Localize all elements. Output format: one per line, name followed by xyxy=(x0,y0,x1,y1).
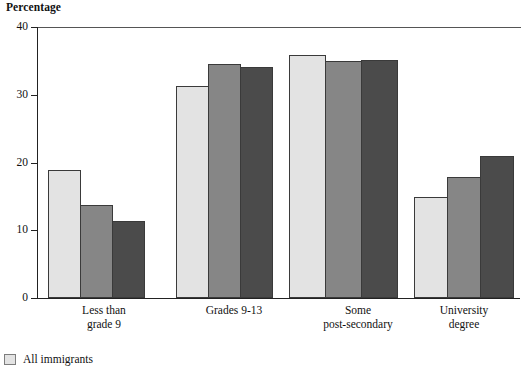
x-axis-category-label-line: grade 9 xyxy=(34,317,174,331)
x-axis-category-label: Grades 9-13 xyxy=(164,303,304,317)
bar xyxy=(240,67,273,298)
bar xyxy=(208,64,241,298)
bar xyxy=(325,61,362,298)
y-axis-tick-labels: 403020100 xyxy=(0,0,28,368)
x-axis-category-label: Less thangrade 9 xyxy=(34,303,174,331)
bar xyxy=(80,205,113,298)
bar-group xyxy=(176,27,272,298)
x-axis-category-label-line: degree xyxy=(394,317,521,331)
legend-color-swatch xyxy=(4,354,16,365)
legend-item: All immigrants xyxy=(4,352,93,366)
chart-legend: All immigrants xyxy=(4,352,93,368)
y-axis-tick-label: 10 xyxy=(2,224,28,236)
x-axis-category-label: Universitydegree xyxy=(394,303,521,331)
x-axis-category-label-line: University xyxy=(394,303,521,317)
y-axis-tick-label: 40 xyxy=(2,21,28,33)
bar xyxy=(414,197,448,298)
x-axis-line xyxy=(31,298,520,299)
x-axis-category-label-line: Grades 9-13 xyxy=(164,303,304,317)
bar xyxy=(361,60,398,298)
bar xyxy=(112,221,145,298)
bar-group xyxy=(289,27,397,298)
legend-label: All immigrants xyxy=(23,353,93,365)
y-axis-tick-label: 20 xyxy=(2,157,28,169)
x-axis-category-label-line: Less than xyxy=(34,303,174,317)
chart-plot-area xyxy=(37,27,520,298)
bar xyxy=(176,86,209,298)
bar xyxy=(480,156,514,298)
bar xyxy=(48,170,81,298)
bar-group xyxy=(414,27,513,298)
y-axis-tick-label: 0 xyxy=(2,292,28,304)
bar-group xyxy=(48,27,144,298)
bar xyxy=(289,55,326,298)
y-axis-tick-label: 30 xyxy=(2,89,28,101)
y-axis-tick xyxy=(31,298,37,299)
bar xyxy=(447,177,481,298)
